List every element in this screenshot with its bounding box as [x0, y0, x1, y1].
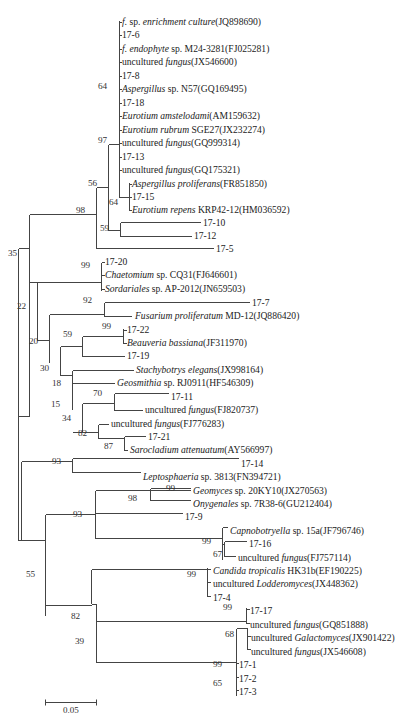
scale-bar: [0, 0, 410, 720]
scale-bar-label: 0.05: [63, 705, 79, 715]
